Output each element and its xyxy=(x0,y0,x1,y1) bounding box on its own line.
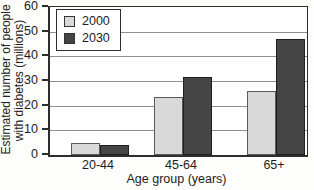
legend: 20002030 xyxy=(56,9,121,51)
bar-2000-45-64 xyxy=(154,97,183,155)
bar-2030-65+ xyxy=(276,39,305,155)
bar-group-65+ xyxy=(247,39,305,155)
bar-2000-65+ xyxy=(247,91,276,155)
legend-label-2000: 2000 xyxy=(82,15,110,28)
legend-swatch-2000 xyxy=(64,16,75,27)
bar-2030-20-44 xyxy=(100,145,129,155)
bar-group-20-44 xyxy=(71,143,129,155)
legend-swatch-2030 xyxy=(64,33,75,44)
y-tick-label-10: 10 xyxy=(8,123,38,135)
x-category-label-20-44: 20-44 xyxy=(66,158,130,172)
legend-item-2000: 2000 xyxy=(64,15,110,28)
y-tick-label-50: 50 xyxy=(8,25,38,37)
x-category-label-45-64: 45-64 xyxy=(149,158,213,172)
y-tick-label-0: 0 xyxy=(8,148,38,160)
bar-2000-20-44 xyxy=(71,143,100,155)
y-tick-label-60: 60 xyxy=(8,0,38,12)
diabetes-bar-chart: Estimated number of people with diabetes… xyxy=(0,0,314,190)
bar-2030-45-64 xyxy=(183,77,212,155)
y-axis-ticks: 0102030405060 xyxy=(0,6,48,154)
y-tick-label-20: 20 xyxy=(8,99,38,111)
bar-group-45-64 xyxy=(154,77,212,155)
legend-item-2030: 2030 xyxy=(64,32,110,45)
x-axis-title: Age group (years) xyxy=(48,172,305,186)
y-tick-label-30: 30 xyxy=(8,74,38,86)
y-tick-label-40: 40 xyxy=(8,49,38,61)
legend-label-2030: 2030 xyxy=(82,32,110,45)
x-category-label-65+: 65+ xyxy=(242,158,306,172)
